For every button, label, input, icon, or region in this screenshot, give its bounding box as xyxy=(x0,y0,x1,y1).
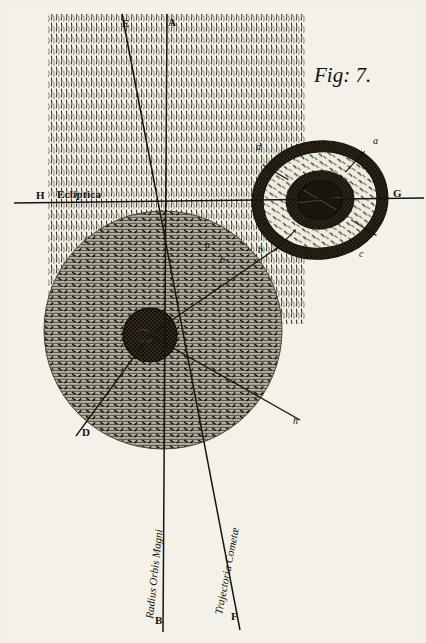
point-label-B: B xyxy=(155,614,163,626)
point-label-F: F xyxy=(231,610,238,622)
point-label-G: G xyxy=(393,187,402,199)
point-label-A: A xyxy=(168,16,176,28)
ring-point-label-c: c xyxy=(359,248,364,259)
figure-canvas: Fig: 7. Ecliptica E A H G B F D a b c d … xyxy=(0,0,426,643)
radius-orbis-magni-label: Radius Orbis Magni xyxy=(143,529,164,621)
point-label-H: H xyxy=(36,189,45,201)
coma-point-label-a: a xyxy=(205,239,210,250)
ecliptica-label: Ecliptica xyxy=(57,188,101,200)
ring-point-label-b: b xyxy=(258,244,263,255)
coma-point-label-b: b xyxy=(220,254,225,265)
coma-point-label-h: h xyxy=(293,415,298,426)
point-label-E: E xyxy=(122,17,129,29)
figure-caption: Fig: 7. xyxy=(313,63,371,87)
engraving-plate: Fig: 7. Ecliptica E A H G B F D a b c d … xyxy=(0,0,426,643)
coma-point-label-i: i xyxy=(84,234,87,245)
point-label-D: D xyxy=(82,426,90,438)
trajectoria-cometae-label: Trajectoria Cometæ xyxy=(212,526,241,616)
ring-point-label-a: a xyxy=(373,135,378,146)
